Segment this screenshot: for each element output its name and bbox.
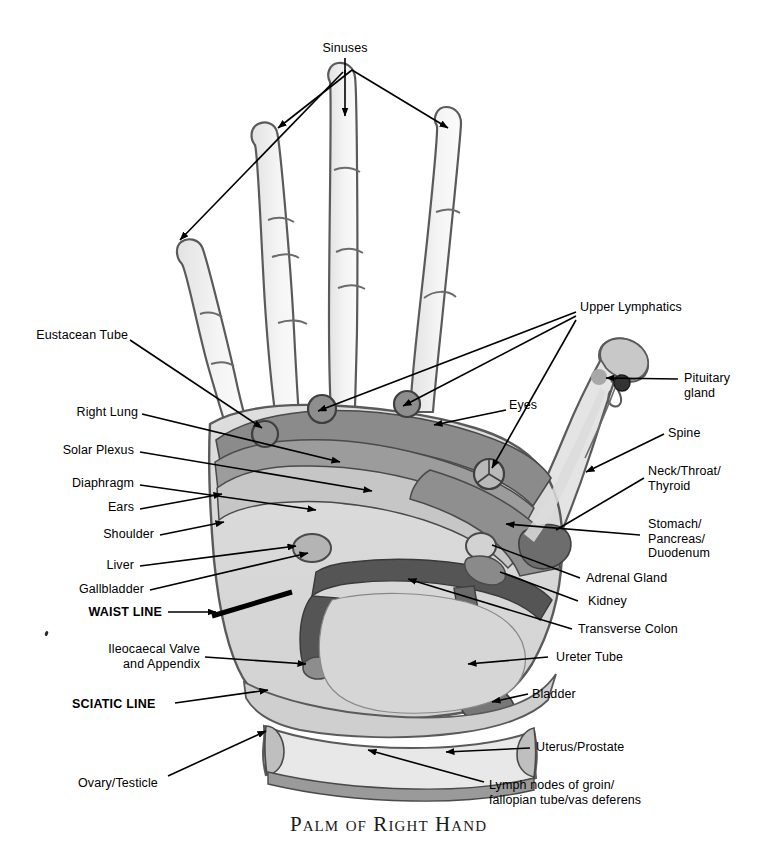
leader-eyes <box>434 410 506 425</box>
label-sinuses: Sinuses <box>297 41 393 56</box>
page-title: Palm of Right Hand <box>0 812 777 837</box>
label-eustacean-tube: Eustacean Tube <box>0 328 128 343</box>
leader-sinuses-to-index <box>352 70 448 128</box>
reflexology-chart: Sinuses Upper Lymphatics Eustacean Tube … <box>0 0 777 864</box>
label-diaphragm: Diaphragm <box>0 476 134 491</box>
leader-pituitary-gland <box>606 378 678 379</box>
label-adrenal-gland: Adrenal Gland <box>586 571 667 586</box>
finger-pinky <box>177 239 248 433</box>
label-solar-plexus: Solar Plexus <box>0 443 134 458</box>
label-shoulder: Shoulder <box>0 527 154 542</box>
zone-liver-marker <box>293 534 331 562</box>
label-stomach-pancreas-duodenum: Stomach/ Pancreas/ Duodenum <box>648 517 710 561</box>
label-ileocaecal-valve: Ileocaecal Valve and Appendix <box>0 642 200 671</box>
label-eyes: Eyes <box>509 398 537 413</box>
finger-ring <box>252 122 299 420</box>
label-neck-throat-thyroid: Neck/Throat/ Thyroid <box>648 464 721 493</box>
label-kidney: Kidney <box>588 594 627 609</box>
label-pituitary-gland: Pituitary gland <box>684 371 730 400</box>
label-ears: Ears <box>0 500 134 515</box>
label-ovary-testicle: Ovary/Testicle <box>78 776 158 791</box>
zone-adrenal-gland <box>466 533 496 559</box>
label-bladder: Bladder <box>532 687 576 702</box>
label-upper-lymphatics: Upper Lymphatics <box>580 300 682 315</box>
label-sciatic-line: SCIATIC LINE <box>72 697 155 712</box>
leader-ovary-testicle <box>168 731 266 776</box>
finger-middle <box>328 63 357 413</box>
label-transverse-colon: Transverse Colon <box>578 622 678 637</box>
label-liver: Liver <box>0 558 134 573</box>
hand-outline-group <box>177 63 648 801</box>
label-uterus-prostate: Uterus/Prostate <box>536 740 624 755</box>
label-right-lung: Right Lung <box>0 405 138 420</box>
hand-diagram <box>0 0 777 864</box>
reflex-point-pituitary-outer <box>591 369 607 385</box>
label-gallbladder: Gallbladder <box>0 582 144 597</box>
label-waist-line: WAIST LINE <box>0 605 162 620</box>
label-lymph-nodes: Lymph nodes of groin/ fallopian tube/vas… <box>489 778 641 807</box>
label-spine: Spine <box>668 426 700 441</box>
leader-eustacean-tube <box>130 340 262 428</box>
label-ureter-tube: Ureter Tube <box>556 650 623 665</box>
